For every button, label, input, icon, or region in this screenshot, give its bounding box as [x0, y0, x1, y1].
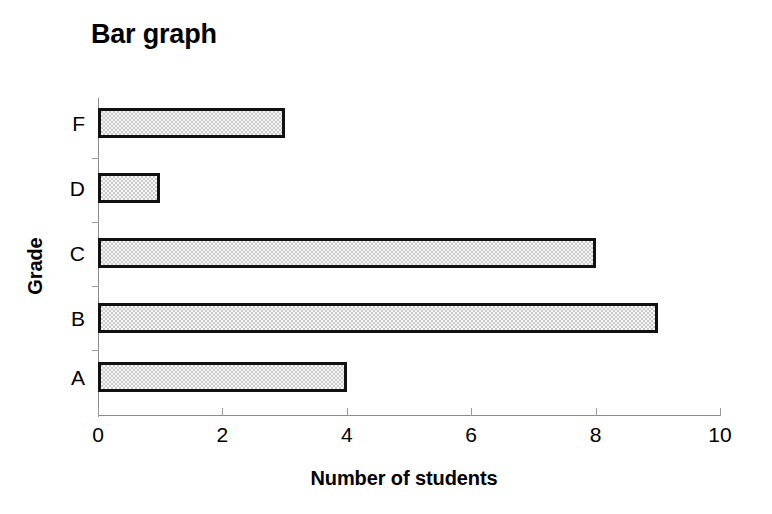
y-tick-label-a: A [55, 367, 85, 388]
x-tick-mark-10 [720, 408, 721, 416]
x-tick-mark-4 [347, 408, 348, 416]
x-axis-line [98, 415, 721, 416]
bar-grade-f[interactable] [98, 108, 285, 138]
bar-grade-d[interactable] [98, 173, 160, 203]
x-tick-label-6: 6 [441, 424, 501, 445]
y-tick-label-f: F [55, 113, 85, 134]
bar-grade-a[interactable] [98, 362, 347, 392]
y-tick-label-c: C [55, 243, 85, 264]
x-axis-title: Number of students [0, 468, 772, 488]
y-tick-label-d: D [55, 178, 85, 199]
bar-grade-c[interactable] [98, 238, 596, 268]
x-tick-mark-2 [222, 408, 223, 416]
x-tick-label-4: 4 [317, 424, 377, 445]
x-tick-mark-8 [596, 408, 597, 416]
y-axis-tick-labels: F D C B A [52, 100, 85, 415]
x-tick-mark-6 [471, 408, 472, 416]
x-tick-label-2: 2 [192, 424, 252, 445]
x-tick-label-8: 8 [566, 424, 626, 445]
y-axis-title-text: Grade [25, 237, 45, 294]
bar-chart: Bar graph Grade F D C B A 0246810 Number… [0, 0, 772, 514]
x-tick-mark-0 [98, 408, 99, 416]
bar-grade-b[interactable] [98, 303, 658, 333]
x-tick-label-10: 10 [690, 424, 750, 445]
chart-title: Bar graph [91, 21, 217, 48]
x-tick-label-0: 0 [68, 424, 128, 445]
y-tick-label-b: B [55, 308, 85, 329]
plot-area [98, 100, 720, 415]
